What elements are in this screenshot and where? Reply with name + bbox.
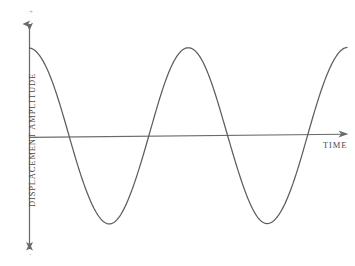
x-axis-label: TIME [323, 140, 347, 150]
negative-sign-label: - [29, 250, 31, 258]
y-axis-label: DISPLACEMENT AMPLITUDE [27, 73, 37, 207]
positive-sign-label: + [29, 8, 33, 16]
plot-canvas [0, 0, 355, 266]
y-axis-up-arrowhead [26, 23, 33, 31]
sine-wave-figure: + - DISPLACEMENT AMPLITUDE TIME [0, 0, 355, 266]
x-axis-line [30, 134, 345, 137]
